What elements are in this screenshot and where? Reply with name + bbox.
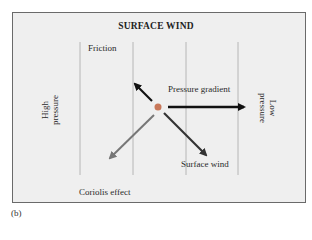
diagram-title: SURFACE WIND [0,21,312,31]
friction-arrow [135,84,152,101]
low-pressure-label: Low pressure [258,78,278,138]
figure-label: (b) [11,208,22,218]
surface-wind-arrow [164,113,206,155]
air-parcel-dot [155,104,162,111]
coriolis-arrow [110,115,154,158]
pressure-gradient-label: Pressure gradient [168,84,230,94]
high-pressure-label: High pressure [40,80,60,140]
coriolis-effect-label: Coriolis effect [79,187,131,197]
surface-wind-label: Surface wind [181,159,229,169]
friction-label: Friction [88,43,117,53]
